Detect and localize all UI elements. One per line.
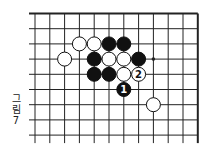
white-stone — [87, 37, 101, 51]
black-stone — [102, 37, 116, 51]
black-stone — [102, 67, 116, 81]
white-stone-disc — [102, 52, 116, 66]
black-stone — [117, 37, 131, 51]
caption-line: 그 — [9, 93, 23, 104]
white-stone — [72, 37, 86, 51]
white-stone — [117, 67, 131, 81]
white-stone-disc — [146, 98, 160, 112]
black-stone: 1 — [117, 83, 131, 97]
caption-line: 림 — [9, 104, 23, 115]
white-stone: 2 — [132, 67, 146, 81]
move-number-label: 1 — [120, 84, 127, 95]
black-stone — [87, 52, 101, 66]
black-stone-disc — [132, 52, 146, 66]
black-stone-disc — [87, 67, 101, 81]
figure-caption: 그 림 7 — [9, 93, 23, 126]
board-markers — [152, 57, 156, 61]
black-stone-disc — [102, 37, 116, 51]
black-stone-disc — [87, 52, 101, 66]
white-stone — [146, 98, 160, 112]
point-marker-dot — [152, 57, 156, 61]
black-stone — [132, 52, 146, 66]
white-stone-disc — [58, 52, 72, 66]
white-stone-disc — [72, 37, 86, 51]
black-stone — [87, 67, 101, 81]
move-number-label: 2 — [135, 69, 142, 80]
white-stone-disc — [117, 67, 131, 81]
white-stone — [102, 52, 116, 66]
go-board: 21 — [0, 0, 213, 160]
black-stone-disc — [102, 67, 116, 81]
white-stone-disc — [87, 37, 101, 51]
white-stone-disc — [117, 52, 131, 66]
white-stone — [58, 52, 72, 66]
black-stone-disc — [117, 37, 131, 51]
caption-line: 7 — [9, 115, 23, 126]
white-stone — [117, 52, 131, 66]
